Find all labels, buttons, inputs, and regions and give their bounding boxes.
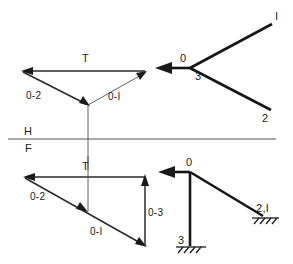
- top-view-label-2: 2: [262, 112, 268, 124]
- ground-support-3: [176, 247, 206, 253]
- top-view-member-1: [190, 24, 272, 68]
- top-label-0-2: 0-2: [26, 90, 41, 101]
- front-view-label-2-1: 2,I: [256, 202, 269, 214]
- front-view-member-2-1: [190, 172, 263, 216]
- front-view-label-0: 0: [186, 156, 192, 168]
- top-view-label-3: 3: [195, 70, 201, 82]
- ground-support-2-1: [252, 218, 279, 224]
- front-vector-0-2-0-1: [25, 178, 147, 247]
- reference-label-H: H: [24, 125, 32, 137]
- top-label-0-1: 0-I: [108, 91, 121, 102]
- top-view-tripod: 0 3 I 2: [155, 10, 278, 124]
- reference-label-F: F: [25, 142, 32, 154]
- front-label-0-2: 0-2: [30, 191, 45, 202]
- top-view-label-1: I: [275, 10, 278, 22]
- front-view-tripod: 0 3 2,I: [158, 156, 279, 253]
- front-label-T: T: [82, 160, 89, 172]
- front-load-vector-T: [23, 173, 145, 181]
- figure-canvas: T 0-2 0-I 0 3 I 2 H F: [0, 0, 293, 264]
- technical-drawing-svg: T 0-2 0-I 0 3 I 2 H F: [0, 0, 293, 264]
- front-label-0-1: 0-I: [90, 226, 103, 237]
- top-force-polygon: T 0-2 0-I: [21, 52, 147, 170]
- top-label-T: T: [82, 52, 89, 64]
- top-view-label-0: 0: [180, 52, 186, 64]
- front-force-polygon: T 0-2 0-I 0-3: [23, 156, 163, 247]
- top-view-member-2: [190, 68, 271, 110]
- front-view-label-3: 3: [178, 234, 184, 246]
- reference-line-group: H F: [8, 125, 276, 154]
- top-load-vector-T: [21, 67, 145, 75]
- front-label-0-3: 0-3: [148, 207, 163, 218]
